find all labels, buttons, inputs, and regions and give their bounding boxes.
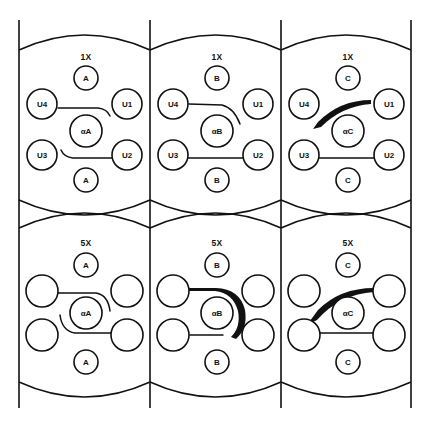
node-bottom-label-top-left: A	[83, 176, 89, 185]
panel-top-right: 1X C U4 U1 αC U3 U2 C	[289, 52, 404, 192]
bottom-scallop-edges	[19, 382, 411, 397]
node-left-lower-label-top-right: U3	[299, 151, 310, 160]
node-center-label-bottom-right: αC	[343, 309, 354, 318]
node-left-lower-label-top-middle: U3	[168, 151, 179, 160]
connector-lower-top-left	[61, 150, 113, 158]
node-bottom-label-bottom-left: A	[83, 358, 89, 367]
node-right-upper-bottom-middle[interactable]	[242, 275, 274, 307]
node-left-upper-label-top-left: U4	[37, 100, 48, 109]
node-right-upper-label-top-left: U1	[122, 100, 133, 109]
panel-title-top-middle: 1X	[212, 52, 223, 62]
node-left-upper-bottom-middle[interactable]	[157, 275, 189, 307]
node-right-upper-label-top-middle: U1	[253, 100, 264, 109]
node-left-upper-bottom-left[interactable]	[26, 275, 58, 307]
panel-bottom-middle: 5X B αB B	[157, 238, 274, 374]
bottom-arc-col2	[150, 382, 281, 397]
node-left-lower-bottom-middle[interactable]	[157, 319, 189, 351]
top-arc-col3	[281, 35, 411, 50]
node-center-label-top-left: αA	[81, 127, 92, 136]
top-arc-col1	[19, 35, 150, 50]
node-left-lower-bottom-left[interactable]	[26, 319, 58, 351]
node-right-lower-label-top-middle: U2	[253, 151, 264, 160]
node-left-upper-label-top-middle: U4	[168, 100, 179, 109]
node-right-upper-bottom-left[interactable]	[111, 275, 143, 307]
node-center-label-top-middle: αB	[212, 127, 223, 136]
panel-bottom-right: 5X C αC C	[288, 238, 405, 374]
node-center-label-bottom-left: αA	[81, 309, 92, 318]
top-arc-col2	[150, 35, 281, 50]
top-scallop-edges	[19, 35, 411, 50]
node-right-upper-bottom-right[interactable]	[373, 275, 405, 307]
node-left-lower-bottom-right[interactable]	[288, 319, 320, 351]
panel-top-middle: 1X B U4 U1 αB U3 U2 B	[158, 52, 273, 192]
node-bottom-label-bottom-middle: B	[214, 358, 220, 367]
node-top-label-bottom-middle: B	[214, 261, 220, 270]
schematic-diagram: 1X A U4 U1 αA U3 U2 A	[0, 0, 427, 429]
node-top-label-bottom-left: A	[83, 261, 89, 270]
node-left-upper-label-top-right: U4	[299, 100, 310, 109]
node-left-lower-label-top-left: U3	[37, 151, 48, 160]
panel-bottom-left: 5X A αA A	[26, 238, 143, 374]
node-left-upper-bottom-right[interactable]	[288, 275, 320, 307]
node-right-upper-label-top-right: U1	[384, 100, 395, 109]
panel-title-top-right: 1X	[343, 52, 354, 62]
node-top-label-bottom-right: C	[345, 261, 351, 270]
bottom-arc-col1	[19, 382, 150, 397]
node-center-label-top-right: αC	[343, 127, 354, 136]
node-center-label-bottom-middle: αB	[212, 309, 223, 318]
figure-container: 1X A U4 U1 αA U3 U2 A	[0, 0, 427, 429]
node-right-lower-label-top-right: U2	[384, 151, 395, 160]
node-right-lower-bottom-middle[interactable]	[242, 319, 274, 351]
panel-title-top-left: 1X	[81, 52, 92, 62]
node-top-label-top-right: C	[345, 74, 351, 83]
panel-top-left: 1X A U4 U1 αA U3 U2 A	[27, 52, 142, 192]
node-top-label-top-middle: B	[214, 74, 220, 83]
node-bottom-label-top-right: C	[345, 176, 351, 185]
node-bottom-label-bottom-right: C	[345, 358, 351, 367]
bottom-arc-col3	[281, 382, 411, 397]
panel-title-bottom-right: 5X	[343, 238, 354, 248]
node-right-lower-bottom-left[interactable]	[111, 319, 143, 351]
panel-title-bottom-middle: 5X	[212, 238, 223, 248]
node-right-lower-label-top-left: U2	[122, 151, 133, 160]
node-top-label-top-left: A	[83, 74, 89, 83]
panel-title-bottom-left: 5X	[81, 238, 92, 248]
node-bottom-label-top-middle: B	[214, 176, 220, 185]
node-right-lower-bottom-right[interactable]	[373, 319, 405, 351]
